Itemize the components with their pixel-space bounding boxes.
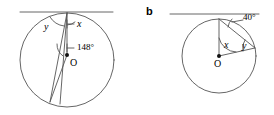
diagram-page: y x 148° O b — [0, 0, 274, 115]
figure-part-a: y x 148° O — [0, 0, 137, 115]
part-label-b: b — [146, 6, 153, 17]
centre-dot-a — [65, 53, 69, 57]
angle-label-y-b: y — [242, 41, 246, 51]
centre-label-o-a: O — [70, 58, 77, 68]
chord-a-2 — [50, 55, 67, 102]
angle-arc-y-a — [50, 17, 64, 26]
figure-part-b: b — [137, 0, 274, 115]
angle-label-148-a: 148° — [77, 43, 94, 52]
angle-label-x-a: x — [77, 19, 81, 29]
centre-label-o-b: O — [214, 59, 221, 69]
chord-a-1 — [50, 13, 67, 102]
part-a-drawing — [0, 0, 137, 115]
angle-arc-x-a — [67, 22, 75, 25]
angle-label-x-b: x — [224, 40, 228, 50]
angle-label-40-b: 40° — [243, 13, 256, 22]
angle-label-y-a: y — [44, 22, 48, 32]
angle-40-leader-b — [232, 20, 243, 22]
